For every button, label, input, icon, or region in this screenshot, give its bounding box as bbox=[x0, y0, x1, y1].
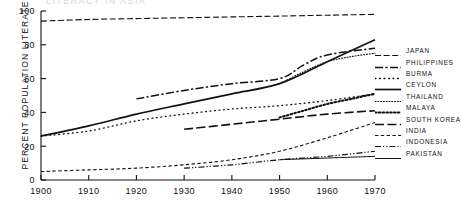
x-tick-marks bbox=[41, 175, 375, 180]
x-tick-label: 1930 bbox=[173, 186, 195, 196]
series-line-pakistan bbox=[280, 156, 375, 159]
legend-line-sample bbox=[375, 92, 401, 101]
y-tick-label: 60 bbox=[24, 74, 35, 84]
legend-label: THAILAND bbox=[406, 93, 444, 100]
x-tick-label: 1900 bbox=[30, 186, 52, 196]
x-tick-label: 1920 bbox=[126, 186, 148, 196]
y-tick-marks bbox=[41, 11, 46, 180]
legend-item-philippines[interactable]: PHILIPPINES bbox=[375, 56, 457, 67]
legend-line-sample bbox=[375, 137, 401, 146]
legend-label: JAPAN bbox=[406, 47, 430, 54]
legend-label: BURMA bbox=[406, 70, 433, 77]
legend-label: INDONESIA bbox=[406, 138, 448, 145]
legend-item-pakistan[interactable]: PAKISTAN bbox=[375, 148, 457, 159]
legend-label: MALAYA bbox=[406, 104, 435, 111]
y-tick-label: 80 bbox=[24, 40, 35, 50]
legend-label: PHILIPPINES bbox=[406, 59, 454, 66]
x-tick-label: 1970 bbox=[364, 186, 386, 196]
axes bbox=[41, 11, 375, 180]
y-tick-label: 40 bbox=[24, 108, 35, 118]
legend-item-malaya[interactable]: MALAYA bbox=[375, 102, 457, 113]
legend-item-indonesia[interactable]: INDONESIA bbox=[375, 136, 457, 147]
legend-label: SOUTH KOREA bbox=[406, 116, 461, 123]
legend-item-japan[interactable]: JAPAN bbox=[375, 45, 457, 56]
x-tick-label: 1910 bbox=[78, 186, 100, 196]
series-line-indonesia bbox=[184, 151, 375, 168]
series-line-ceylon bbox=[41, 40, 375, 136]
legend-label: PAKISTAN bbox=[406, 150, 443, 157]
legend-item-burma[interactable]: BURMA bbox=[375, 68, 457, 79]
legend-item-south-korea[interactable]: SOUTH KOREA bbox=[375, 113, 457, 124]
legend-item-thailand[interactable]: THAILAND bbox=[375, 91, 457, 102]
y-tick-labels: 020406080100 bbox=[19, 6, 35, 185]
series-line-india bbox=[41, 123, 375, 172]
legend-line-sample bbox=[375, 58, 401, 67]
x-tick-label: 1950 bbox=[269, 186, 291, 196]
legend-line-sample bbox=[375, 80, 401, 89]
legend-item-ceylon[interactable]: CEYLON bbox=[375, 79, 457, 90]
legend-line-sample bbox=[375, 126, 401, 135]
x-tick-labels: 19001910192019301940195019601970 bbox=[30, 186, 386, 196]
legend-line-sample bbox=[375, 115, 401, 124]
legend-label: INDIA bbox=[406, 127, 427, 134]
y-tick-label: 20 bbox=[24, 142, 35, 152]
y-tick-label: 0 bbox=[30, 175, 35, 185]
series-lines bbox=[41, 14, 375, 171]
legend-line-sample bbox=[375, 149, 401, 158]
series-line-thailand bbox=[280, 53, 375, 83]
legend: JAPANPHILIPPINESBURMACEYLONTHAILANDMALAY… bbox=[375, 45, 457, 159]
legend-line-sample bbox=[375, 69, 401, 78]
legend-line-sample bbox=[375, 103, 401, 112]
series-line-japan bbox=[41, 14, 375, 21]
series-line-south-korea bbox=[184, 111, 375, 130]
x-tick-label: 1960 bbox=[316, 186, 338, 196]
x-tick-label: 1940 bbox=[221, 186, 243, 196]
legend-item-india[interactable]: INDIA bbox=[375, 125, 457, 136]
legend-label: CEYLON bbox=[406, 81, 437, 88]
y-tick-label: 100 bbox=[19, 6, 35, 16]
legend-line-sample bbox=[375, 46, 401, 55]
